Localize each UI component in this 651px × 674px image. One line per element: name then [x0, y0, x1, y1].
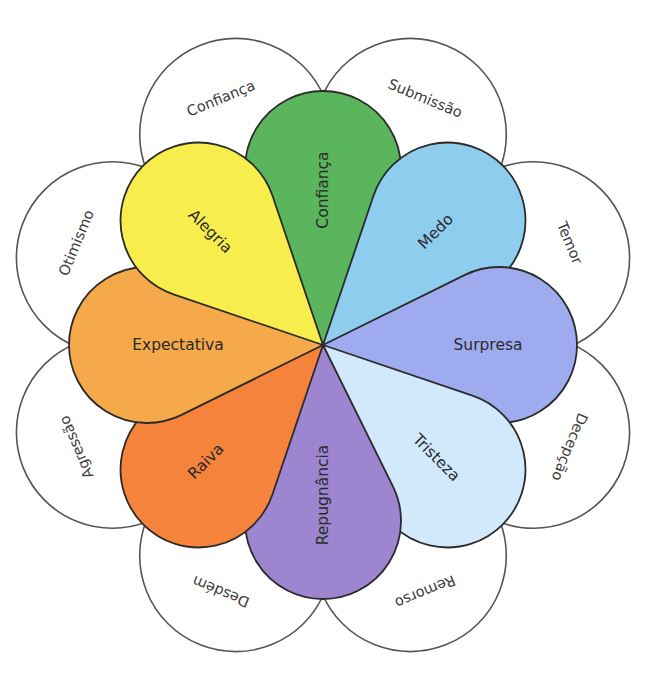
- primary-label-repugnancia: Repugnância: [314, 445, 332, 546]
- emotion-wheel: ConfiançaSubmissãoTemorDecepçãoRemorsoDe…: [0, 0, 651, 674]
- primary-label-surpresa: Surpresa: [453, 336, 522, 354]
- primary-label-expectativa: Expectativa: [132, 336, 224, 354]
- primary-label-confianca: Confiança: [314, 151, 332, 228]
